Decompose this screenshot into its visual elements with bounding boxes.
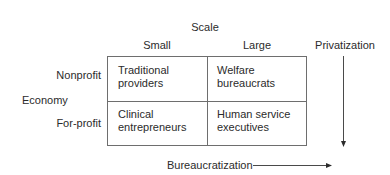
privatization-arrow-icon: [341, 56, 346, 147]
bureaucratization-arrow-icon: [253, 163, 332, 168]
arrows-layer: [0, 0, 390, 175]
